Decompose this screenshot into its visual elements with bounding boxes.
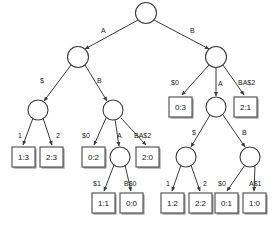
tree-diagram-svg: 1:32:30:22:00:32:11:10:01:22:20:11:0 AB$… bbox=[0, 0, 276, 228]
tree-edge bbox=[254, 165, 255, 191]
internal-node-lvl2_l1 bbox=[28, 100, 48, 120]
leaf-label: 2:3 bbox=[46, 153, 58, 162]
tree-edge bbox=[94, 118, 106, 145]
edge-label: 2 bbox=[56, 132, 60, 139]
edge-label: 1 bbox=[18, 132, 22, 139]
leaf-label: 0:0 bbox=[126, 199, 138, 208]
leaf-label: 2:2 bbox=[195, 199, 207, 208]
leaf-label: 2:0 bbox=[142, 153, 154, 162]
tree-edge bbox=[43, 118, 52, 145]
leaf-label: 1:2 bbox=[167, 199, 179, 208]
leaf-label: 1:1 bbox=[98, 199, 110, 208]
tree-edge bbox=[23, 118, 33, 145]
edge-label: $1 bbox=[93, 180, 101, 187]
tree-edge bbox=[172, 165, 181, 191]
edge-label: A bbox=[218, 80, 223, 87]
tree-edge bbox=[44, 65, 71, 101]
edge-label: $0 bbox=[171, 79, 179, 86]
edge-label: B bbox=[242, 129, 247, 136]
leaves-layer: 1:32:30:22:00:32:11:10:01:22:20:11:0 bbox=[12, 97, 268, 215]
edge-label: A bbox=[117, 132, 122, 139]
edge-label: $0 bbox=[218, 180, 226, 187]
edge-label: $ bbox=[192, 129, 196, 136]
edge-label: B$0 bbox=[124, 180, 137, 187]
internal-node-lvl3_m bbox=[110, 147, 130, 167]
edge-label: B bbox=[190, 27, 195, 34]
tree-edge bbox=[125, 165, 131, 191]
leaf-label: 1:0 bbox=[249, 199, 261, 208]
leaf-label: 0:1 bbox=[221, 199, 233, 208]
internal-node-root bbox=[136, 3, 157, 24]
leaf-label: 0:3 bbox=[175, 103, 187, 112]
edge-label: $ bbox=[40, 77, 44, 84]
edge-label: BA$2 bbox=[238, 79, 255, 86]
internal-node-lvl3_r2 bbox=[240, 147, 260, 167]
tree-diagram-canvas: 1:32:30:22:00:32:11:10:01:22:20:11:0 AB$… bbox=[0, 0, 276, 228]
edge-label: BA$2 bbox=[134, 132, 151, 139]
internal-node-lvl2_l2 bbox=[103, 100, 123, 120]
leaf-label: 1:3 bbox=[18, 153, 30, 162]
tree-edge bbox=[182, 65, 209, 95]
leaf-label: 2:1 bbox=[240, 103, 252, 112]
tree-edge bbox=[104, 165, 114, 191]
internal-node-lvl1_a bbox=[68, 47, 89, 68]
edge-label: B bbox=[97, 77, 102, 84]
edge-label: 1 bbox=[166, 180, 170, 187]
tree-edge bbox=[154, 20, 209, 49]
tree-edge bbox=[85, 65, 107, 101]
edge-label: A bbox=[101, 27, 106, 34]
edge-label: $0 bbox=[82, 132, 90, 139]
edge-label: 2 bbox=[203, 180, 207, 187]
leaf-label: 0:2 bbox=[88, 153, 100, 162]
internal-node-lvl2_r1 bbox=[206, 97, 226, 117]
tree-edge bbox=[191, 165, 200, 191]
internal-node-lvl1_b bbox=[206, 47, 227, 68]
internal-node-lvl3_r1 bbox=[176, 147, 196, 167]
tree-edge bbox=[85, 20, 138, 49]
edge-label: A$1 bbox=[249, 180, 262, 187]
tree-edge bbox=[227, 165, 245, 191]
